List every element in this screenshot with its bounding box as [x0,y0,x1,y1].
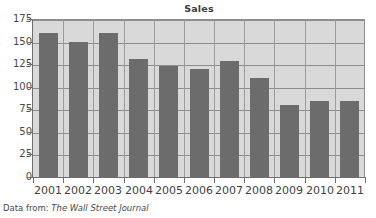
x-tick-mark [154,178,155,183]
x-tick-label-2007: 2007 [214,184,244,197]
source-note-publication: The Wall Street Journal [51,203,148,213]
x-tick-mark [124,178,125,183]
x-tick-mark [214,178,215,183]
x-tick-mark [365,178,366,183]
source-note-prefix: Data from: [3,203,51,213]
bar-2011[interactable] [340,101,359,177]
bar-2010[interactable] [310,101,329,177]
category-separator [214,20,215,177]
x-tick-label-2008: 2008 [244,184,274,197]
bar-2004[interactable] [129,59,148,177]
category-separator [154,20,155,177]
bar-2009[interactable] [280,105,299,177]
category-separator [63,20,64,177]
x-tick-label-2009: 2009 [274,184,304,197]
x-tick-label-2005: 2005 [154,184,184,197]
source-note: Data from: The Wall Street Journal [3,203,149,214]
x-tick-label-2002: 2002 [63,184,93,197]
x-tick-label-2011: 2011 [335,184,365,197]
chart-figure: Sales 0255075100125150175 20012002200320… [0,0,376,218]
category-separator [305,20,306,177]
x-tick-label-2010: 2010 [305,184,335,197]
x-tick-label-2006: 2006 [184,184,214,197]
x-axis-ticks: 2001200220032004200520062007200820092010… [33,178,365,202]
bar-2007[interactable] [220,61,239,177]
bar-2008[interactable] [250,78,269,177]
category-separator [93,20,94,177]
chart-title: Sales [33,3,365,15]
x-tick-mark [63,178,64,183]
x-tick-mark [244,178,245,183]
category-separator [124,20,125,177]
bar-2002[interactable] [69,42,88,177]
bar-2006[interactable] [190,69,209,177]
x-tick-mark [274,178,275,183]
category-separator [274,20,275,177]
bar-2005[interactable] [159,66,178,177]
x-tick-mark [33,178,34,183]
x-tick-mark [335,178,336,183]
category-separator [184,20,185,177]
y-axis-ticks: 0255075100125150175 [0,19,32,177]
category-separator [244,20,245,177]
x-tick-mark [184,178,185,183]
bar-2003[interactable] [99,33,118,177]
plot-area [33,19,365,177]
x-tick-label-2004: 2004 [124,184,154,197]
x-tick-label-2003: 2003 [93,184,123,197]
plot-inner [33,20,364,177]
gridline [33,20,364,21]
category-separator [335,20,336,177]
bar-2001[interactable] [39,33,58,177]
x-tick-mark [93,178,94,183]
x-tick-label-2001: 2001 [33,184,63,197]
x-tick-mark [305,178,306,183]
